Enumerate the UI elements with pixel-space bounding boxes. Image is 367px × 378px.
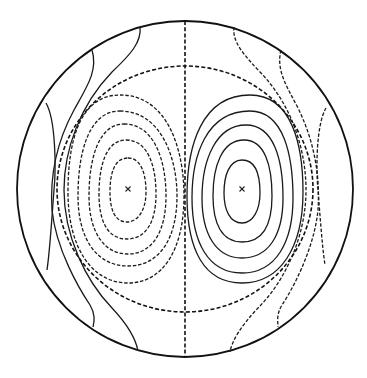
right-center-x-icon [240,187,245,192]
left-loop-5 [68,95,184,283]
right-loop-2 [213,140,272,242]
right-open-contours [230,27,326,352]
left-open-contour-3 [64,27,140,351]
right-loop-1 [224,160,260,223]
streamline-diagram [0,0,367,378]
left-vortex-cell [68,95,184,283]
right-vortex-cell [187,95,303,283]
right-loop-4 [192,111,293,273]
right-loop-5 [187,95,303,283]
left-center-x-icon [126,187,131,192]
left-open-contour-2 [52,50,95,327]
left-loop-1 [110,158,146,222]
right-loop-3 [202,125,283,258]
left-open-contour-1 [46,103,55,270]
